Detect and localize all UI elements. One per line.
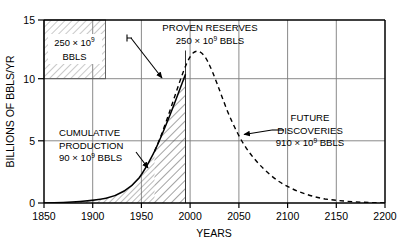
x-tick-label-1950: 1950 [130,210,154,222]
y-tick-label-0: 0 [29,197,35,209]
legend-box-amount: 250 × 109 [54,36,95,47]
y-tick-label-15: 15 [23,14,35,26]
future-discoveries-title-1: FUTURE [291,112,330,123]
x-tick-label-2200: 2200 [373,210,397,222]
reserves-legend-box: 250 × 109 BBLS [44,20,106,79]
x-tick-label-2100: 2100 [276,210,300,222]
proven-reserves-amount: 250 × 109 BBLS [176,35,245,46]
chart-figure: 250 × 109 BBLS 15 10 [0,0,409,245]
x-tick-label-2000: 2000 [178,210,202,222]
y-axis-title: BILLIONS OF BBLS/YR [4,55,16,167]
future-discoveries-amount: 910 × 109 BBLS [276,137,345,148]
x-tick-label-2150: 2150 [325,210,349,222]
x-axis-title: YEARS [196,227,232,239]
cumulative-production-amount: 90 × 109 BBLS [59,152,122,163]
cumulative-production-title-1: CUMULATIVE [59,127,120,138]
chart-svg: 250 × 109 BBLS 15 10 [0,0,409,245]
y-tick-label-10: 10 [23,73,35,85]
y-tick-label-5: 5 [29,135,35,147]
legend-box-unit: BBLS [63,51,87,62]
future-discoveries-title-2: DISCOVERIES [277,125,343,136]
cumulative-production-title-2: PRODUCTION [59,140,124,151]
x-tick-label-1850: 1850 [32,210,56,222]
x-tick-label-2050: 2050 [227,210,251,222]
proven-reserves-title: PROVEN RESERVES [162,22,257,33]
x-tick-label-1900: 1900 [81,210,105,222]
